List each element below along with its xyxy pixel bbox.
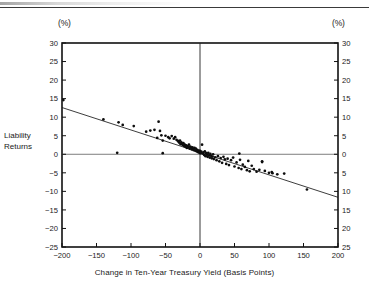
scatter-point bbox=[233, 165, 236, 168]
scatter-point bbox=[264, 170, 267, 173]
y-tick-label-left: 15 bbox=[50, 94, 58, 103]
scatter-point bbox=[261, 160, 264, 163]
scatter-point bbox=[153, 128, 156, 131]
scatter-point bbox=[268, 171, 271, 174]
x-tick-label: 0 bbox=[198, 251, 202, 260]
x-tick-label: −100 bbox=[122, 251, 139, 260]
y-tick-label-right: 10 bbox=[342, 113, 350, 122]
chart-figure: (%) (%) Liability Returns −200−150−100−5… bbox=[0, 0, 369, 289]
y-tick-label-left: 25 bbox=[50, 57, 58, 66]
x-axis-title: Change in Ten-Year Treasury Yield (Basis… bbox=[0, 268, 369, 277]
scatter-point bbox=[201, 143, 204, 146]
scatter-point bbox=[132, 125, 135, 128]
scatter-point bbox=[244, 166, 247, 169]
scatter-point bbox=[117, 121, 120, 124]
scatter-point bbox=[235, 161, 238, 164]
scatter-point bbox=[161, 152, 164, 155]
scatter-point bbox=[149, 129, 152, 132]
scatter-point bbox=[161, 139, 164, 142]
y-axis-ticks-left: −25−20−15−10−5051015202530 bbox=[45, 39, 66, 252]
scatter-point bbox=[164, 134, 167, 137]
scatter-point bbox=[62, 99, 65, 102]
scatter-point bbox=[156, 137, 159, 140]
scatter-point bbox=[219, 157, 222, 160]
y-tick-label-left: −5 bbox=[49, 169, 58, 178]
y-tick-label-right: 5 bbox=[342, 169, 346, 178]
scatter-point bbox=[232, 156, 235, 159]
y-tick-label-left: 0 bbox=[54, 150, 58, 159]
scatter-point bbox=[237, 167, 240, 170]
y-tick-label-right: 25 bbox=[342, 57, 350, 66]
y-tick-label-right: 15 bbox=[342, 206, 350, 215]
scatter-point bbox=[271, 172, 274, 175]
scatter-point bbox=[218, 160, 221, 163]
y-axis-ticks-right: 252015105051015202530 bbox=[334, 39, 350, 252]
y-tick-label-left: 5 bbox=[54, 132, 58, 141]
y-tick-label-left: −20 bbox=[45, 224, 58, 233]
scatter-point bbox=[283, 172, 286, 175]
zero-reference-lines bbox=[62, 43, 338, 247]
scatter-point bbox=[102, 118, 105, 121]
y-tick-label-left: −10 bbox=[45, 187, 58, 196]
scatter-point bbox=[157, 120, 160, 123]
scatter-plot-canvas: −200−150−100−50050100150200 −25−20−15−10… bbox=[0, 0, 369, 289]
scatter-point bbox=[217, 155, 220, 158]
scatter-point bbox=[121, 124, 124, 127]
scatter-point bbox=[258, 169, 261, 172]
scatter-point bbox=[223, 158, 226, 161]
scatter-point bbox=[252, 168, 255, 171]
scatter-point bbox=[246, 169, 249, 172]
scatter-point bbox=[116, 151, 119, 154]
y-tick-label-right: 25 bbox=[342, 243, 350, 252]
x-tick-label: −200 bbox=[53, 251, 70, 260]
scatter-point bbox=[255, 170, 258, 173]
scatter-points bbox=[62, 99, 308, 191]
scatter-point bbox=[228, 164, 231, 167]
scatter-point bbox=[225, 163, 228, 166]
y-tick-label-left: −15 bbox=[45, 206, 58, 215]
y-tick-label-right: 15 bbox=[342, 94, 350, 103]
scatter-point bbox=[226, 157, 229, 160]
y-tick-label-right: 10 bbox=[342, 187, 350, 196]
scatter-point bbox=[145, 130, 148, 133]
x-tick-label: 150 bbox=[297, 251, 310, 260]
scatter-point bbox=[250, 164, 253, 167]
scatter-point bbox=[221, 161, 224, 164]
scatter-point bbox=[222, 156, 225, 159]
y-tick-label-right: 5 bbox=[342, 132, 346, 141]
scatter-point bbox=[214, 156, 217, 159]
scatter-point bbox=[248, 170, 251, 173]
scatter-point bbox=[230, 159, 233, 162]
scatter-point bbox=[168, 137, 171, 140]
scatter-point bbox=[160, 134, 163, 137]
scatter-point bbox=[306, 188, 309, 191]
scatter-point bbox=[240, 168, 243, 171]
y-tick-label-left: −25 bbox=[45, 243, 58, 252]
y-tick-label-right: 0 bbox=[342, 150, 346, 159]
x-axis-ticks: −200−150−100−50050100150200 bbox=[53, 243, 344, 260]
x-tick-label: 100 bbox=[263, 251, 276, 260]
scatter-point bbox=[276, 173, 279, 176]
scatter-point bbox=[174, 136, 177, 139]
scatter-point bbox=[241, 163, 244, 166]
y-tick-label-left: 20 bbox=[50, 76, 58, 85]
x-tick-label: −50 bbox=[159, 251, 172, 260]
x-tick-label: 200 bbox=[332, 251, 345, 260]
y-tick-label-left: 10 bbox=[50, 113, 58, 122]
scatter-point bbox=[238, 152, 241, 155]
scatter-point bbox=[239, 158, 242, 161]
x-tick-label: −150 bbox=[88, 251, 105, 260]
y-tick-label-right: 20 bbox=[342, 76, 350, 85]
scatter-point bbox=[247, 160, 250, 163]
scatter-point bbox=[212, 153, 215, 156]
y-tick-label-right: 30 bbox=[342, 39, 350, 48]
scatter-point bbox=[170, 135, 173, 138]
y-tick-label-left: 30 bbox=[50, 39, 58, 48]
scatter-point bbox=[159, 130, 162, 133]
y-tick-label-right: 20 bbox=[342, 224, 350, 233]
x-tick-label: 50 bbox=[230, 251, 238, 260]
scatter-point bbox=[215, 159, 218, 162]
